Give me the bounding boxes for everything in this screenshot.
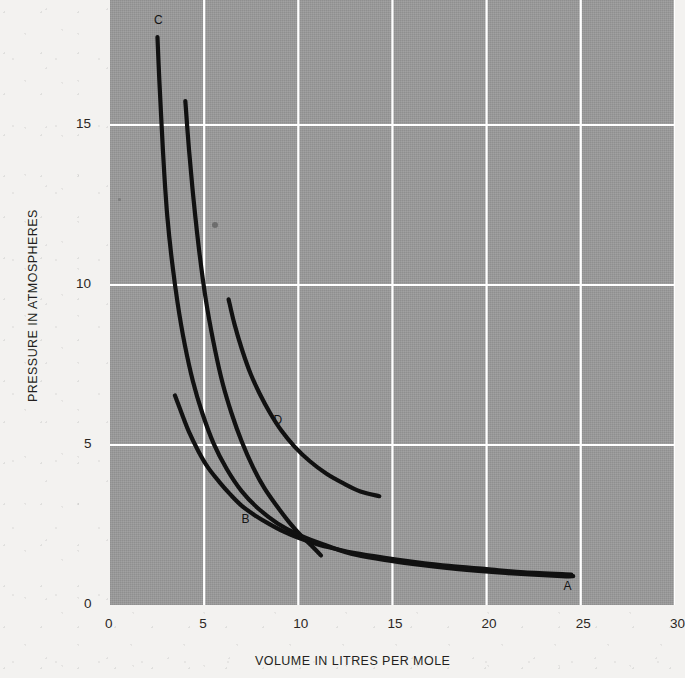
x-tick-label: 25 (576, 616, 591, 631)
x-axis-title: VOLUME IN LITRES PER MOLE (255, 654, 450, 668)
x-tick-label: 20 (482, 616, 497, 631)
plot-area (110, 0, 675, 605)
curve-b (185, 101, 321, 555)
x-tick-label: 10 (293, 616, 308, 631)
chart-canvas (110, 0, 675, 605)
x-tick-label: 0 (105, 616, 113, 631)
curve-label-c: C (154, 13, 163, 27)
y-tick-label: 0 (84, 596, 92, 611)
scan-speck (212, 222, 218, 228)
y-axis-title: PRESSURE IN ATMOSPHERES (26, 212, 40, 402)
x-tick-label: 30 (670, 616, 685, 631)
curve-label-b: B (242, 512, 250, 526)
curve-label-a: A (564, 579, 572, 593)
y-tick-label: 10 (76, 276, 91, 291)
x-tick-label: 5 (199, 616, 207, 631)
curve-label-d: D (274, 413, 283, 427)
x-tick-label: 15 (387, 616, 402, 631)
scan-speck (118, 198, 121, 201)
data-curves (157, 37, 573, 576)
y-tick-label: 15 (76, 116, 91, 131)
curve-c (157, 37, 573, 576)
y-tick-label: 5 (84, 436, 92, 451)
gridlines (110, 0, 675, 605)
